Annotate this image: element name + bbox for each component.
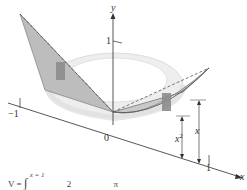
x-neg-tick-label: −1 [8, 109, 19, 119]
origin-label: 0 [104, 133, 109, 143]
integral-sign: ∫ [24, 175, 28, 190]
volume-formula: V = ∫ x = 1 2 π [8, 175, 118, 190]
y-tick-label: 1 [106, 36, 111, 46]
x-axis-label: x [240, 172, 244, 182]
inner-radius-label: x2 [175, 133, 183, 144]
formula-fragment: 2 [67, 179, 72, 189]
x-pos-tick-label: 1 [206, 163, 211, 173]
y-axis-label: y [111, 3, 115, 13]
outer-radius-label: x [195, 126, 199, 136]
formula-lhs: V = [8, 179, 22, 189]
formula-pi: π [114, 179, 119, 189]
upper-limit: x = 1 [30, 171, 45, 179]
